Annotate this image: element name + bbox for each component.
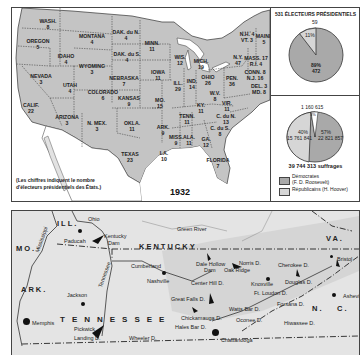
state-label: MO.15 xyxy=(155,98,165,109)
state-label: ARIZONA3 xyxy=(55,115,79,126)
popular-rep-value: 15 761 841 xyxy=(287,135,312,141)
state-label: W.V.8 xyxy=(210,91,220,102)
state-label: VIR.11 xyxy=(222,101,232,112)
state-label: WIS.12 xyxy=(174,55,185,66)
state-votes: 4 xyxy=(79,40,105,46)
city-knoxville-marker xyxy=(266,277,270,281)
state-votes: 26 xyxy=(201,81,214,87)
map-label: Fontana D. xyxy=(277,301,304,307)
state-votes: 4 xyxy=(63,89,77,95)
state-label: FLORIDA7 xyxy=(206,158,229,169)
map-year: 1932 xyxy=(170,187,190,197)
city-asheville-marker xyxy=(332,293,336,297)
map-label: Hiwassee D. xyxy=(284,320,315,326)
popular-other-percent: 3% xyxy=(310,112,316,117)
state-label: MINN.11 xyxy=(145,41,160,52)
city-nashville-marker xyxy=(162,271,166,275)
map-label: MO. xyxy=(16,244,36,253)
state-label: ILL.29 xyxy=(173,81,182,92)
state-votes: 3 xyxy=(55,121,79,127)
map-label: Chickamauga D. xyxy=(181,315,222,321)
note-line-2: d'électeurs présidentiels des États.) xyxy=(16,184,101,191)
electoral-rep-value: 59 xyxy=(312,19,318,25)
state-votes: 3 xyxy=(79,70,105,76)
state-votes: 8 xyxy=(210,132,229,138)
state-votes: 12 xyxy=(174,61,185,67)
state-label: TENN.11 xyxy=(179,114,195,125)
map-label: VA. xyxy=(326,234,344,243)
electoral-dem-value: 472 xyxy=(312,68,320,74)
state-label: KANSAS9 xyxy=(118,96,140,107)
map-label: Pickwick xyxy=(74,326,95,332)
state-label: OREGON5 xyxy=(26,39,49,50)
state-label: N. MEX.3 xyxy=(87,121,106,132)
state-label: NEBRASKA7 xyxy=(109,76,138,87)
legend-label-rep: Républicains (H. Hoover) xyxy=(292,187,348,193)
panel-divider xyxy=(271,95,360,96)
state-votes: 8 xyxy=(210,97,220,103)
map-label: N. xyxy=(312,304,324,313)
map-label: Douglas D. xyxy=(285,279,312,285)
legend-swatch-dem xyxy=(279,177,290,185)
state-votes: 22 xyxy=(23,109,39,115)
state-votes: 11 xyxy=(183,141,195,147)
state-votes: 3 xyxy=(30,80,52,86)
state-label: COLORADO6 xyxy=(88,90,118,101)
map-label: Green River xyxy=(177,226,207,232)
state-label: UTAH4 xyxy=(63,83,77,94)
map-label: Kentucky xyxy=(104,233,127,239)
state-label: NEVADA3 xyxy=(30,74,52,85)
state-label: CALIF.22 xyxy=(23,103,39,114)
state-label: DEL. 3MD. 8 xyxy=(251,84,267,95)
map-label: Watts Bar D. xyxy=(229,306,260,312)
map-label: TENNESSEE xyxy=(60,315,171,324)
state-votes: 4 xyxy=(58,60,75,66)
state-votes: 15 xyxy=(155,104,165,110)
state-votes: 9 xyxy=(118,102,140,108)
legend-label-dem-2: (F. D. Roosevelt) xyxy=(292,180,329,186)
state-label: MICH.19 xyxy=(194,59,209,70)
city-paducah-marker xyxy=(78,229,82,233)
state-label: C. du N.13 xyxy=(216,114,236,125)
map-label: Oak Ridge xyxy=(224,267,250,273)
city-jackson-marker xyxy=(81,302,85,306)
map-label: Nashville xyxy=(147,278,169,284)
state-votes: 11 xyxy=(124,127,140,133)
state-votes: MD. 8 xyxy=(251,90,267,96)
map-label: Great Falls D. xyxy=(171,296,205,302)
state-votes: 4 xyxy=(114,58,141,64)
state-label: MONTANA4 xyxy=(79,34,105,45)
state-label: IND.14 xyxy=(187,79,197,90)
state-votes: 8 xyxy=(39,25,56,31)
state-label: OKLA.11 xyxy=(124,121,140,132)
state-votes: 12 xyxy=(201,143,210,149)
state-label: IDAHO4 xyxy=(58,54,75,65)
state-label: GA.12 xyxy=(201,137,210,148)
state-label: DAK. du N.4 xyxy=(112,30,139,41)
state-votes: VT. 3 xyxy=(240,38,255,44)
note-line-1: (Les chiffres indiquent le nombre xyxy=(16,177,101,184)
state-label: PEN.36 xyxy=(226,76,238,87)
city-memphis-marker xyxy=(23,318,30,325)
state-label: MISS.9 xyxy=(169,135,183,146)
map-label: Knoxville xyxy=(251,281,273,287)
election-map-1932: WASH.8OREGON5IDAHO4MONTANA4DAK. du N.4DA… xyxy=(11,7,360,202)
state-votes: 14 xyxy=(187,85,197,91)
state-label: MASS. 17R.I. 4 xyxy=(244,56,268,67)
state-votes: 29 xyxy=(173,87,182,93)
state-votes: 11 xyxy=(145,47,160,53)
map-label: KENTUCKY xyxy=(139,242,197,251)
state-votes: R.I. 4 xyxy=(244,62,268,68)
popular-dem-value: 22 821 857 xyxy=(318,135,343,141)
state-votes: 47 xyxy=(233,61,243,67)
state-votes: 7 xyxy=(206,164,229,170)
tva-map: ILL.OhioGreen RiverVA.MO.PaducahKentucky… xyxy=(11,210,360,355)
map-label: Bristol xyxy=(337,256,352,262)
map-label: Paducah xyxy=(64,238,86,244)
state-votes: 19 xyxy=(194,65,209,71)
state-votes: 36 xyxy=(226,82,238,88)
map-label: Landing D. xyxy=(74,335,101,341)
state-label: ARK.9 xyxy=(157,125,170,136)
state-label: CONN. 8N.J. 16 xyxy=(244,70,265,81)
map-label: Ohio xyxy=(88,216,100,222)
